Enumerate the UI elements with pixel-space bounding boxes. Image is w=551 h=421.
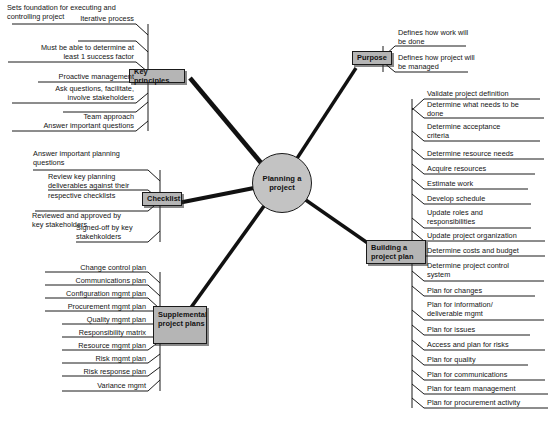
branch-node-label: Supplemental project plans bbox=[158, 310, 207, 328]
leaf-building-plan-8: Update project organization bbox=[427, 231, 549, 240]
spoke-purpose bbox=[294, 68, 356, 163]
leaf-key-principles-3: Ask questions, facilitate, involve stake… bbox=[22, 84, 134, 103]
leaf-building-plan-5: Estimate work bbox=[427, 179, 547, 188]
branch-node-label: Checklist bbox=[147, 194, 180, 203]
branch-node-supplemental-project-plans[interactable]: Supplemental project plans bbox=[153, 306, 207, 344]
leaf-building-plan-18: Plan for procurement activity bbox=[427, 398, 551, 407]
leaf-building-plan-6: Develop schedule bbox=[427, 194, 547, 203]
branch-node-building-a-project-plan[interactable]: Building a project plan bbox=[366, 240, 426, 264]
leaf-key-principles-5: Answer important questions bbox=[10, 121, 134, 130]
spoke-checklist bbox=[178, 188, 254, 203]
branch-node-label: Key principles bbox=[134, 67, 180, 85]
leaf-supplemental-9: Variance mgmt bbox=[62, 381, 146, 390]
leaf-supplemental-7: Risk mgmt plan bbox=[62, 354, 146, 363]
leaf-supplemental-3: Procurement mgmt plan bbox=[46, 302, 146, 311]
branch-node-key-principles[interactable]: Key principles bbox=[129, 69, 185, 83]
leaf-key-principles-4: Team approach bbox=[36, 112, 134, 121]
leaf-supplemental-5: Responsibility matrix bbox=[62, 328, 146, 337]
leaf-checklist-1: Review key planning deliverables against… bbox=[48, 172, 148, 200]
leaf-building-plan-15: Plan for quality bbox=[427, 355, 549, 364]
leaf-building-plan-13: Plan for issues bbox=[427, 325, 549, 334]
spoke-key-principles bbox=[190, 78, 262, 164]
leaf-building-plan-1: Determine what needs to be done bbox=[427, 100, 547, 119]
leaf-building-plan-0: Validate project definition bbox=[427, 89, 547, 98]
leaf-purpose-0: Defines how work will be done bbox=[398, 28, 518, 47]
leaf-checklist-3: Signed-off by key stakehkolders bbox=[76, 223, 148, 242]
leaf-building-plan-17: Plan for team management bbox=[427, 384, 549, 393]
leaf-building-plan-9: Determine costs and budget bbox=[427, 246, 549, 255]
branch-node-purpose[interactable]: Purpose bbox=[352, 51, 392, 65]
leaf-supplemental-4: Quality mgmt plan bbox=[62, 315, 146, 324]
leaf-building-plan-3: Determine resource needs bbox=[427, 149, 547, 158]
leaf-supplemental-0: Change control plan bbox=[46, 263, 146, 272]
leaf-building-plan-16: Plan for communications bbox=[427, 370, 549, 379]
leaf-checklist-0: Answer important planning questions bbox=[33, 149, 149, 168]
center-node-label: Planning a project bbox=[253, 174, 311, 193]
leaf-supplemental-8: Risk response plan bbox=[56, 367, 146, 376]
leaf-supplemental-6: Resource mgmt plan bbox=[62, 341, 146, 350]
leaf-building-plan-2: Determine acceptance criteria bbox=[427, 122, 547, 141]
leaf-supplemental-2: Configuration mgmt plan bbox=[46, 289, 146, 298]
mind-map-diagram: Sets foundation for executing and contro… bbox=[0, 0, 551, 421]
spoke-supplemental bbox=[182, 206, 264, 320]
branch-node-label: Purpose bbox=[357, 53, 387, 62]
leaf-key-principles-2: Proactive management bbox=[26, 72, 134, 81]
leaf-building-plan-7: Update roles and responsibilities bbox=[427, 208, 547, 227]
leaf-key-principles-1: Must be able to determine at least 1 suc… bbox=[16, 43, 134, 62]
branch-node-label: Building a project plan bbox=[371, 243, 421, 261]
leaf-building-plan-10: Determine project control system bbox=[427, 261, 549, 280]
leaf-purpose-1: Defines how project will be managed bbox=[398, 53, 522, 72]
leaf-supplemental-1: Communications plan bbox=[46, 276, 146, 285]
leaf-building-plan-12: Plan for information/ deliverable mgmt bbox=[427, 300, 549, 319]
center-node-planning-a-project[interactable]: Planning a project bbox=[252, 153, 312, 213]
leaf-building-plan-14: Access and plan for risks bbox=[427, 340, 549, 349]
leaf-building-plan-4: Acquire resources bbox=[427, 164, 547, 173]
leaf-building-plan-11: Plan for changes bbox=[427, 286, 549, 295]
leaf-key-principles-0: Iterative process bbox=[36, 14, 134, 23]
branch-node-checklist[interactable]: Checklist bbox=[142, 192, 182, 206]
